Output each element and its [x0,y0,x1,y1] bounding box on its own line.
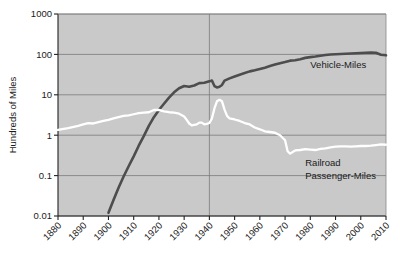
x-tick-label: 1920 [142,220,165,243]
y-tick-label: 10 [41,89,52,100]
y-tick-label: 1 [47,130,52,141]
y-tick-label: 100 [36,49,52,60]
x-tick-label: 2000 [343,220,366,243]
line-chart: 10001001010.10.0118801890190019101920193… [0,0,404,259]
series-label-railroad-line1: Railroad [305,157,340,168]
x-tick-label: 1970 [268,220,291,243]
x-tick-label: 1900 [91,220,114,243]
series-label-vehicle-miles: Vehicle-Miles [310,59,366,70]
x-tick-label: 1930 [167,220,190,243]
y-axis-title: Hundreds of Miles [7,76,18,153]
x-tick-label: 1950 [217,220,240,243]
y-tick-label: 0.01 [34,210,53,221]
x-tick-label: 1960 [243,220,266,243]
chart-container: 10001001010.10.0118801890190019101920193… [0,0,404,259]
x-tick-label: 1990 [318,220,341,243]
x-tick-label: 1890 [66,220,89,243]
plot-area-background [58,14,386,216]
x-tick-label: 1940 [192,220,215,243]
y-axis-ticks: 10001001010.10.01 [31,8,58,221]
x-tick-label: 1980 [293,220,316,243]
x-axis-ticks: 1880189019001910192019301940195019601970… [41,216,392,242]
x-tick-label: 2010 [369,220,392,243]
x-tick-label: 1880 [41,220,64,243]
x-tick-label: 1910 [116,220,139,243]
series-label-railroad-line2: Passenger-Miles [305,170,376,181]
y-tick-label: 1000 [31,8,52,19]
y-tick-label: 0.1 [39,170,52,181]
